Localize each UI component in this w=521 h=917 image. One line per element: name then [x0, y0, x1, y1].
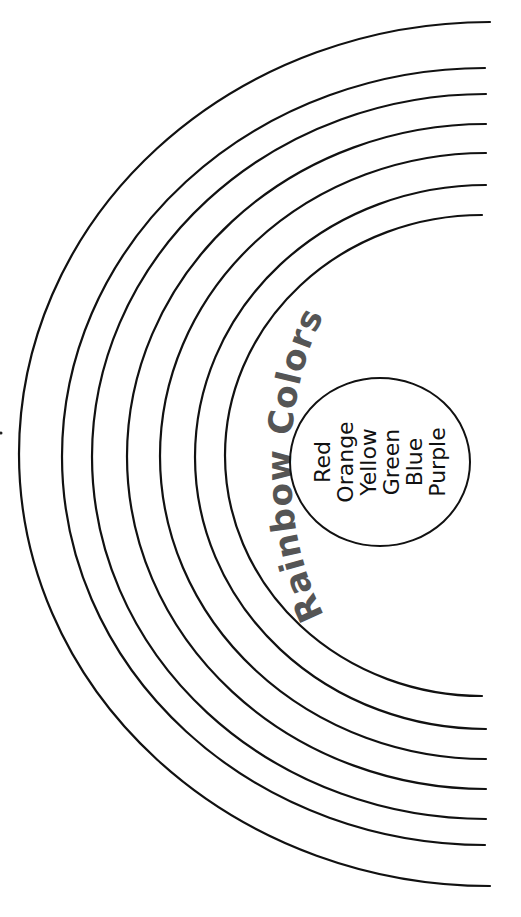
color-label-green: Green: [380, 421, 403, 502]
color-label-purple: Purple: [426, 421, 449, 502]
color-label-red: Red: [311, 421, 334, 502]
color-label-blue: Blue: [403, 421, 426, 502]
stray-dot: [0, 432, 3, 435]
color-label-yellow: Yellow: [357, 421, 380, 502]
color-list: Red Orange Yellow Green Blue Purple: [311, 421, 449, 502]
color-label-orange: Orange: [334, 421, 357, 502]
